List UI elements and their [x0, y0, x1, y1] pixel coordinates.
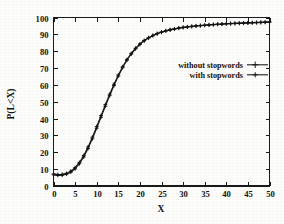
y-tick-label: 0 [44, 182, 48, 192]
chart-canvas: 05101520253035404550 0102030405060708090… [0, 0, 284, 224]
series-with-stopwords [52, 20, 272, 176]
x-axis-title: X [158, 203, 165, 214]
y-tick-label: 70 [40, 64, 49, 74]
x-axis-tick-labels: 05101520253035404550 [52, 189, 274, 199]
y-tick-label: 30 [40, 131, 49, 141]
chart-legend: without stopwords with stopwords [178, 61, 268, 80]
legend-key-without-stopwords [247, 62, 268, 68]
x-tick-label: 50 [266, 189, 275, 199]
legend-entry-with-stopwords: with stopwords [190, 71, 243, 80]
x-tick-label: 25 [158, 189, 167, 199]
x-tick-label: 15 [114, 189, 123, 199]
y-tick-label: 80 [40, 47, 49, 57]
y-tick-label: 10 [40, 165, 49, 175]
y-tick-label: 100 [36, 14, 49, 24]
y-tick-label: 90 [40, 30, 49, 40]
x-tick-label: 0 [52, 189, 56, 199]
y-tick-label: 60 [40, 81, 49, 91]
x-tick-label: 35 [201, 189, 210, 199]
plot-frame [54, 18, 270, 187]
x-tick-label: 45 [244, 189, 253, 199]
chart-figure: 05101520253035404550 0102030405060708090… [0, 0, 284, 224]
x-tick-label: 40 [222, 189, 231, 199]
legend-key-with-stopwords [247, 72, 268, 77]
x-tick-label: 30 [179, 189, 188, 199]
y-tick-label: 50 [40, 98, 49, 108]
x-axis-ticks [55, 18, 271, 187]
x-tick-label: 5 [73, 189, 77, 199]
y-tick-label: 20 [40, 148, 49, 158]
y-axis-ticks [54, 19, 270, 187]
y-tick-label: 40 [40, 115, 49, 125]
legend-entry-without-stopwords: without stopwords [178, 61, 243, 70]
y-axis-tick-labels: 0102030405060708090100 [36, 14, 49, 192]
x-tick-label: 20 [136, 189, 145, 199]
x-tick-label: 10 [93, 189, 102, 199]
data-series-group [52, 20, 272, 177]
y-axis-title: P(L<X) [5, 88, 17, 119]
